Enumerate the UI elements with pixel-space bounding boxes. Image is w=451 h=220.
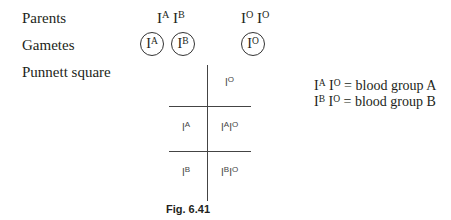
punnett-row-header-b: IB (182, 167, 190, 178)
punnett-row-header-a: IA (182, 122, 190, 133)
gametes-label: Gametes (22, 37, 74, 54)
figure-caption: Fig. 6.41 (166, 203, 210, 215)
parent2-genotype: IO IO (241, 10, 269, 27)
parent1-genotype: IA IB (157, 10, 185, 27)
punnett-cell-b-o: IBIO (221, 167, 238, 178)
punnett-horizontal-line-1 (169, 106, 251, 107)
punnett-horizontal-line-2 (169, 151, 251, 152)
key-line-a: IA IO = blood group A (314, 78, 436, 94)
gamete-circle-a: IA (140, 32, 164, 56)
gamete-circle-o: IO (241, 32, 265, 56)
punnett-square-label: Punnett square (22, 64, 111, 81)
punnett-vertical-line (207, 65, 208, 201)
key-line-b: IB IO = blood group B (314, 94, 436, 110)
gamete-circle-b: IB (171, 32, 195, 56)
parents-label: Parents (22, 10, 66, 27)
punnett-column-header: IO (225, 77, 234, 88)
punnett-cell-a-o: IAIO (221, 122, 238, 133)
